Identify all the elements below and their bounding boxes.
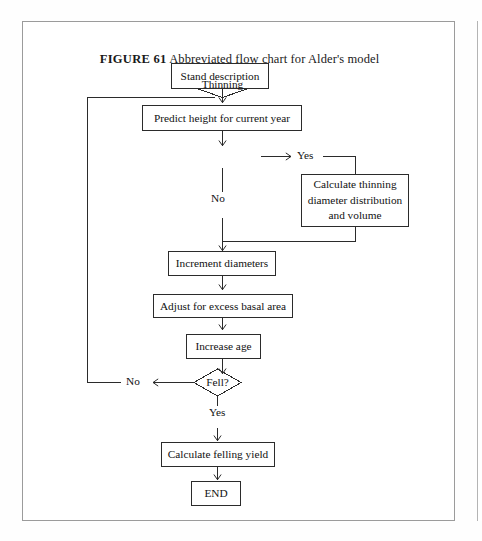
adjacent-page-edge: [477, 21, 482, 521]
edge-label-fell-yes: Yes: [207, 406, 227, 418]
node-calculate-thinning-line-2: diameter distribution: [308, 193, 402, 209]
node-end-label: END: [204, 486, 227, 500]
node-calculate-thinning[interactable]: Calculate thinning diameter distribution…: [301, 174, 409, 227]
edge-yes-to-calcthin: [323, 157, 355, 175]
node-predict-height-label: Predict height for current year: [154, 111, 290, 125]
node-fell-decision[interactable]: Fell?: [194, 369, 241, 396]
figure-page: FIGURE 61 Abbreviated flow chart for Ald…: [22, 21, 455, 521]
node-end[interactable]: END: [191, 481, 241, 506]
node-increase-age[interactable]: Increase age: [186, 334, 261, 359]
node-increment-diameters-label: Increment diameters: [176, 256, 269, 270]
node-calculate-felling-yield[interactable]: Calculate felling yield: [161, 442, 275, 467]
node-fell-decision-label: Fell?: [206, 375, 229, 389]
node-increment-diameters[interactable]: Increment diameters: [168, 251, 276, 276]
node-increase-age-label: Increase age: [195, 339, 251, 353]
scanned-page-root: FIGURE 61 Abbreviated flow chart for Ald…: [0, 0, 482, 541]
edge-label-thinning-no: No: [209, 192, 227, 204]
node-calculate-thinning-line-3: and volume: [328, 208, 381, 224]
flowchart: Stand description Predict height for cur…: [23, 22, 456, 522]
node-adjust-basal-area[interactable]: Adjust for excess basal area: [153, 294, 293, 318]
node-calculate-felling-yield-label: Calculate felling yield: [168, 447, 268, 461]
node-thinning-decision-label: Thinning: [202, 77, 243, 91]
edge-label-fell-no: No: [124, 375, 142, 387]
edge-calcthin-return: [223, 227, 356, 241]
edge-label-thinning-yes: Yes: [295, 149, 315, 161]
node-adjust-basal-area-label: Adjust for excess basal area: [160, 299, 286, 313]
node-predict-height[interactable]: Predict height for current year: [142, 105, 302, 131]
node-calculate-thinning-line-1: Calculate thinning: [313, 177, 396, 193]
node-thinning-decision[interactable]: Thinning: [184, 71, 261, 99]
